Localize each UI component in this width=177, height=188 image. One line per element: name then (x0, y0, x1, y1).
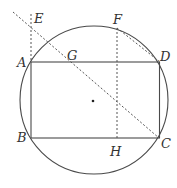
geometry-diagram: A B C D E F G H (0, 0, 177, 188)
circumscribed-circle (20, 26, 168, 174)
label-h: H (109, 144, 122, 159)
rectangle-abcd (31, 62, 160, 138)
label-c: C (161, 136, 171, 151)
dashed-diagonal-through-g-to-c (13, 12, 159, 138)
label-g: G (67, 48, 77, 63)
label-a: A (16, 55, 26, 70)
label-d: D (159, 49, 171, 64)
label-e: E (33, 11, 44, 26)
label-b: B (16, 130, 27, 145)
label-f: F (112, 12, 123, 27)
center-dot (92, 100, 95, 103)
